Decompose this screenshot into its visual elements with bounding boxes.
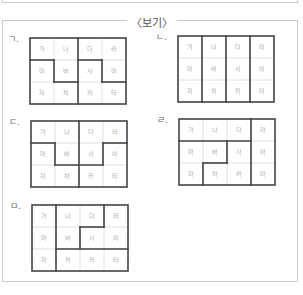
cell-label: 나 — [65, 212, 71, 220]
cell-label: 라 — [112, 128, 118, 136]
partition-grid: 가나다라마바사아자차카타 — [31, 121, 127, 187]
cell-label: 바 — [63, 67, 69, 75]
cell-label: 라 — [260, 126, 266, 134]
cell-label: 마 — [41, 234, 47, 242]
cell-label: 나 — [64, 128, 70, 136]
cell-label: 차 — [64, 172, 70, 180]
cell-label: 차 — [212, 170, 218, 178]
cell-label: 다 — [87, 45, 93, 53]
cell-label: 타 — [113, 256, 119, 264]
option-label: ㄱ. — [8, 32, 19, 45]
cell-label: 가 — [39, 45, 45, 53]
cell-label: 바 — [211, 65, 217, 73]
cell-label: 사 — [89, 234, 95, 242]
cell-label: 마 — [40, 150, 46, 158]
cell-label: 자 — [188, 170, 194, 178]
cell-label: 아 — [259, 65, 265, 73]
cell-label: 나 — [212, 126, 218, 134]
cell-label: 타 — [260, 170, 266, 178]
cell-label: 라 — [259, 43, 265, 51]
cell-label: 타 — [111, 89, 117, 97]
cell-label: 타 — [259, 87, 265, 95]
cell-label: 다 — [235, 43, 241, 51]
cell-label: 마 — [188, 148, 194, 156]
cell-label: 카 — [236, 170, 242, 178]
cell-label: 아 — [112, 150, 118, 158]
cell-label: 자 — [41, 256, 47, 264]
cell-label: 사 — [88, 150, 94, 158]
cell-label: 타 — [112, 172, 118, 180]
cell-label: 사 — [236, 148, 242, 156]
cell-label: 자 — [187, 87, 193, 95]
cell-label: 아 — [260, 148, 266, 156]
partition-grid: 가나다라마바사아자차카타 — [178, 36, 274, 102]
cell-label: 라 — [111, 45, 117, 53]
cell-label: 차 — [63, 89, 69, 97]
cell-label: 카 — [235, 87, 241, 95]
cell-label: 라 — [113, 212, 119, 220]
cell-label: 나 — [63, 45, 69, 53]
cell-label: 마 — [187, 65, 193, 73]
cell-label: 다 — [236, 126, 242, 134]
cell-label: 마 — [39, 67, 45, 75]
cell-label: 나 — [211, 43, 217, 51]
cell-label: 아 — [113, 234, 119, 242]
cell-label: 카 — [89, 256, 95, 264]
cell-label: 바 — [212, 148, 218, 156]
cell-label: 다 — [88, 128, 94, 136]
option-label: ㄹ. — [157, 113, 168, 126]
cell-label: 사 — [235, 65, 241, 73]
cell-label: 자 — [40, 172, 46, 180]
cell-label: 사 — [87, 67, 93, 75]
previous-box — [2, 0, 298, 3]
partition-grid: 가나다라마바사아자차카타 — [30, 38, 126, 104]
cell-label: 카 — [88, 172, 94, 180]
partition-grid: 가나다라마바사아자차카타 — [179, 119, 275, 185]
cell-label: 아 — [111, 67, 117, 75]
cell-label: 가 — [40, 128, 46, 136]
cell-label: 카 — [87, 89, 93, 97]
cell-label: 다 — [89, 212, 95, 220]
cell-label: 가 — [187, 43, 193, 51]
cell-label: 차 — [65, 256, 71, 264]
cell-label: 가 — [41, 212, 47, 220]
cell-label: 가 — [188, 126, 194, 134]
cell-label: 바 — [64, 150, 70, 158]
option-label: ㄴ. — [156, 30, 167, 43]
example-title: 〈보기〉 — [127, 17, 177, 30]
option-label: ㅁ. — [10, 199, 21, 212]
cell-label: 차 — [211, 87, 217, 95]
example-title-wrap: 〈보기〉 — [0, 12, 303, 28]
cell-label: 자 — [39, 89, 45, 97]
cell-label: 바 — [65, 234, 71, 242]
option-label: ㄷ. — [9, 115, 20, 128]
partition-grid: 가나다라마바사아자차카타 — [32, 205, 128, 271]
